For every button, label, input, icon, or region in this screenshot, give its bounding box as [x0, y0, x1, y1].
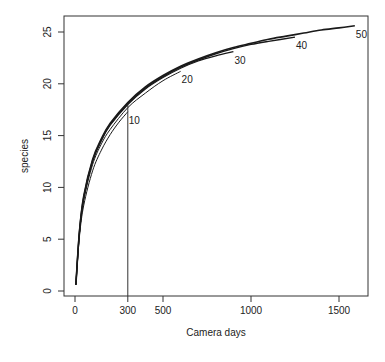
y-axis: 0510152025 — [42, 26, 64, 294]
x-tick-label: 300 — [119, 305, 136, 316]
curve-label-10: 10 — [129, 115, 141, 126]
curve-label-20: 20 — [182, 74, 194, 85]
curves — [76, 26, 355, 285]
y-tick-label: 10 — [42, 181, 53, 193]
y-tick-label: 0 — [42, 288, 53, 294]
x-tick-label: 1500 — [328, 305, 351, 316]
curve-50 — [76, 26, 355, 285]
x-tick-label: 1000 — [240, 305, 263, 316]
curve-label-30: 30 — [234, 55, 246, 66]
x-tick-label: 500 — [155, 305, 172, 316]
x-axis-title: Camera days — [186, 327, 245, 338]
curve-label-40: 40 — [296, 40, 308, 51]
y-tick-label: 15 — [42, 130, 53, 142]
y-tick-label: 20 — [42, 78, 53, 90]
species-accumulation-chart: 030050010001500 0510152025 1020304050 Ca… — [0, 0, 385, 362]
curve-label-50: 50 — [356, 29, 368, 40]
x-tick-label: 0 — [72, 305, 78, 316]
y-axis-title: species — [19, 139, 30, 173]
plot-frame — [64, 16, 368, 296]
y-tick-label: 25 — [42, 26, 53, 38]
y-tick-label: 5 — [42, 236, 53, 242]
x-axis: 030050010001500 — [72, 296, 350, 316]
